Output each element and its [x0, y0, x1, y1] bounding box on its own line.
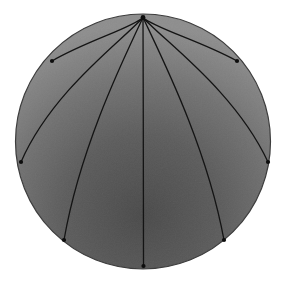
geodesic-right-mid-endpoint-marker	[266, 160, 270, 164]
figure-root	[0, 0, 285, 286]
geodesic-center-endpoint-marker	[141, 264, 145, 268]
geodesic-right-outer-endpoint-marker	[235, 59, 239, 63]
geodesic-fan-diagram	[0, 0, 285, 286]
geodesic-left-inner-endpoint-marker	[62, 238, 66, 242]
geodesic-center	[143, 18, 144, 267]
geodesic-left-outer-endpoint-marker	[50, 59, 54, 63]
geodesic-right-inner-endpoint-marker	[222, 238, 226, 242]
geodesic-left-mid-endpoint-marker	[19, 160, 23, 164]
apex-point-marker	[141, 15, 146, 20]
